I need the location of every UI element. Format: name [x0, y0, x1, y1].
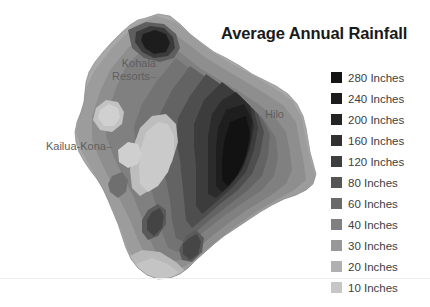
- legend-color-swatch: [331, 177, 342, 188]
- legend-label: 240 Inches: [348, 93, 404, 105]
- legend-color-swatch: [331, 261, 342, 272]
- legend-color-swatch: [331, 282, 342, 293]
- legend-row[interactable]: 280 Inches: [331, 67, 426, 88]
- legend-row[interactable]: 240 Inches: [331, 88, 426, 109]
- legend-row[interactable]: 120 Inches: [331, 151, 426, 172]
- legend-color-swatch: [331, 198, 342, 209]
- map-label-kohala-line1: Kohala: [68, 57, 156, 70]
- legend-color-swatch: [331, 93, 342, 104]
- rainfall-map-figure: Average Annual Rainfall Kohala Resorts– …: [0, 0, 430, 307]
- page-title: Average Annual Rainfall: [221, 24, 407, 43]
- leader-dash-kohala: –: [150, 70, 156, 82]
- legend-label: 160 Inches: [348, 135, 404, 147]
- map-label-kailua-kona: Kailua-Kona–: [10, 140, 112, 153]
- leader-dash-kailua: –: [106, 140, 112, 152]
- legend-label: 200 Inches: [348, 114, 404, 126]
- legend-row[interactable]: 30 Inches: [331, 235, 426, 256]
- map-label-kohala-line2-row: Resorts–: [68, 70, 156, 83]
- legend-color-swatch: [331, 72, 342, 83]
- legend-row[interactable]: 40 Inches: [331, 214, 426, 235]
- legend-color-swatch: [331, 219, 342, 230]
- map-label-kohala-resorts: Kohala Resorts–: [68, 57, 156, 82]
- legend-row[interactable]: 80 Inches: [331, 172, 426, 193]
- legend-label: 120 Inches: [348, 156, 404, 168]
- legend-label: 40 Inches: [348, 219, 398, 231]
- map-label-kailua-text: Kailua-Kona: [46, 140, 106, 152]
- map-label-kohala-line2: Resorts: [112, 70, 150, 82]
- legend-row[interactable]: 200 Inches: [331, 109, 426, 130]
- legend-label: 30 Inches: [348, 240, 398, 252]
- legend-label: 10 Inches: [348, 282, 398, 294]
- rainfall-contour-bands: [60, 5, 330, 305]
- map-label-hilo: Hilo: [265, 108, 284, 121]
- legend-row[interactable]: 160 Inches: [331, 130, 426, 151]
- legend-color-swatch: [331, 240, 342, 251]
- legend-color-swatch: [331, 114, 342, 125]
- legend-row[interactable]: 60 Inches: [331, 193, 426, 214]
- legend-label: 80 Inches: [348, 177, 398, 189]
- legend-color-swatch: [331, 135, 342, 146]
- legend-color-swatch: [331, 156, 342, 167]
- legend-row[interactable]: 10 Inches: [331, 277, 426, 298]
- legend-label: 20 Inches: [348, 261, 398, 273]
- legend-row[interactable]: 20 Inches: [331, 256, 426, 277]
- rainfall-legend: 280 Inches240 Inches200 Inches160 Inches…: [331, 67, 426, 298]
- legend-label: 60 Inches: [348, 198, 398, 210]
- legend-label: 280 Inches: [348, 72, 404, 84]
